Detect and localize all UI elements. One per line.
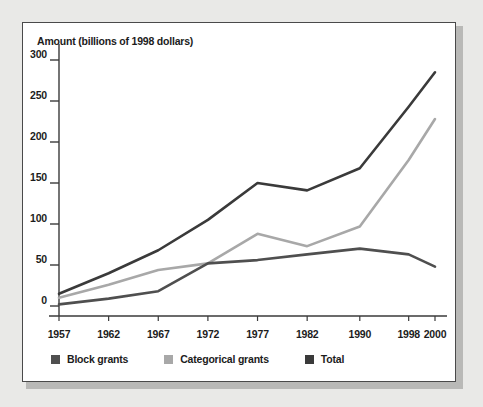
legend-label-block-grants: Block grants	[67, 353, 128, 365]
legend-swatch-categorical-grants	[164, 355, 173, 364]
y-axis-tick-label: 0	[17, 294, 47, 306]
legend-label-total: Total	[321, 353, 344, 365]
legend-swatch-total	[305, 355, 314, 364]
x-axis-tick-label: 1957	[39, 328, 79, 340]
x-axis-tick-label: 1982	[287, 328, 327, 340]
chart-panel: Amount (billions of 1998 dollars) Block …	[22, 22, 456, 382]
x-axis-tick-label: 1977	[238, 328, 278, 340]
legend-swatch-block-grants	[51, 355, 60, 364]
x-axis-tick-label: 2000	[415, 328, 455, 340]
y-axis-tick-label: 200	[17, 130, 47, 142]
legend-item-block-grants: Block grants	[51, 353, 128, 365]
legend-label-categorical-grants: Categorical grants	[180, 353, 269, 365]
x-axis-tick-label: 1967	[138, 328, 178, 340]
y-axis-tick-label: 100	[17, 212, 47, 224]
y-axis-tick-label: 150	[17, 171, 47, 183]
legend-item-total: Total	[305, 353, 344, 365]
figure-root: Amount (billions of 1998 dollars) Block …	[0, 0, 483, 407]
x-axis-tick-label: 1990	[340, 328, 380, 340]
y-axis-tick-label: 300	[17, 48, 47, 60]
x-axis-tick-label: 1972	[188, 328, 228, 340]
legend-item-categorical-grants: Categorical grants	[164, 353, 269, 365]
x-axis-tick-label: 1962	[89, 328, 129, 340]
chart-legend: Block grants Categorical grants Total	[51, 353, 380, 365]
y-axis-tick-label: 50	[17, 253, 47, 265]
y-axis-tick-label: 250	[17, 89, 47, 101]
